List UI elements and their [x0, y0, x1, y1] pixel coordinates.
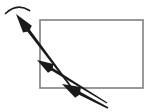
arrow-shaft — [48, 66, 107, 103]
arrow-mid-upleft — [37, 60, 107, 104]
motion-arc-icon — [6, 7, 30, 13]
arrow-long-upleft — [16, 14, 79, 96]
diagram-svg — [0, 0, 149, 112]
rectangle-shape — [40, 20, 143, 88]
diagram-canvas: Arrows pointing out of a rectangle A gra… — [0, 0, 149, 112]
